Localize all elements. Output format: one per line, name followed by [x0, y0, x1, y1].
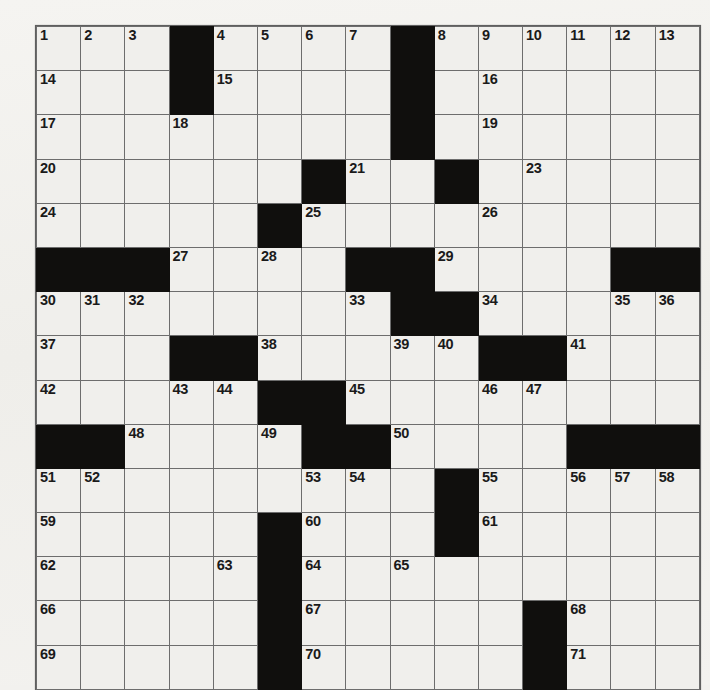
- crossword-cell[interactable]: [81, 601, 125, 645]
- crossword-cell[interactable]: [213, 645, 257, 689]
- crossword-cell[interactable]: [213, 159, 257, 203]
- crossword-cell[interactable]: 39: [390, 336, 434, 380]
- crossword-cell[interactable]: [125, 203, 169, 247]
- crossword-cell[interactable]: [125, 336, 169, 380]
- crossword-cell[interactable]: 55: [478, 468, 522, 512]
- crossword-table[interactable]: 1234567891011121314151617181920212324252…: [36, 26, 700, 690]
- crossword-cell[interactable]: [213, 115, 257, 159]
- crossword-cell[interactable]: [655, 71, 699, 115]
- crossword-cell[interactable]: 21: [346, 159, 390, 203]
- crossword-cell[interactable]: [346, 203, 390, 247]
- crossword-cell[interactable]: 63: [213, 557, 257, 601]
- crossword-cell[interactable]: 49: [257, 424, 301, 468]
- crossword-cell[interactable]: [523, 468, 567, 512]
- crossword-cell[interactable]: [567, 557, 611, 601]
- crossword-cell[interactable]: [125, 71, 169, 115]
- crossword-cell[interactable]: [611, 159, 655, 203]
- crossword-cell[interactable]: [302, 292, 346, 336]
- crossword-cell[interactable]: 35: [611, 292, 655, 336]
- crossword-cell[interactable]: [169, 468, 213, 512]
- crossword-cell[interactable]: [567, 380, 611, 424]
- crossword-cell[interactable]: [655, 557, 699, 601]
- crossword-cell[interactable]: 43: [169, 380, 213, 424]
- crossword-cell[interactable]: [611, 71, 655, 115]
- crossword-cell[interactable]: 46: [478, 380, 522, 424]
- crossword-cell[interactable]: [346, 645, 390, 689]
- crossword-cell[interactable]: [523, 513, 567, 557]
- crossword-cell[interactable]: [523, 203, 567, 247]
- crossword-cell[interactable]: [611, 601, 655, 645]
- crossword-cell[interactable]: [81, 336, 125, 380]
- crossword-cell[interactable]: [434, 71, 478, 115]
- crossword-cell[interactable]: [213, 601, 257, 645]
- crossword-cell[interactable]: 52: [81, 468, 125, 512]
- crossword-cell[interactable]: [81, 645, 125, 689]
- crossword-cell[interactable]: 61: [478, 513, 522, 557]
- crossword-cell[interactable]: 70: [302, 645, 346, 689]
- crossword-cell[interactable]: [611, 203, 655, 247]
- crossword-cell[interactable]: 31: [81, 292, 125, 336]
- crossword-cell[interactable]: 2: [81, 27, 125, 71]
- crossword-cell[interactable]: [125, 557, 169, 601]
- crossword-cell[interactable]: 20: [37, 159, 81, 203]
- crossword-cell[interactable]: 44: [213, 380, 257, 424]
- crossword-cell[interactable]: 59: [37, 513, 81, 557]
- crossword-cell[interactable]: [611, 336, 655, 380]
- crossword-cell[interactable]: 11: [567, 27, 611, 71]
- crossword-cell[interactable]: [567, 159, 611, 203]
- crossword-cell[interactable]: 29: [434, 247, 478, 291]
- crossword-cell[interactable]: [390, 203, 434, 247]
- crossword-cell[interactable]: [81, 115, 125, 159]
- crossword-cell[interactable]: 62: [37, 557, 81, 601]
- crossword-cell[interactable]: 42: [37, 380, 81, 424]
- crossword-cell[interactable]: [390, 513, 434, 557]
- crossword-cell[interactable]: [169, 557, 213, 601]
- crossword-cell[interactable]: 8: [434, 27, 478, 71]
- crossword-cell[interactable]: 71: [567, 645, 611, 689]
- crossword-cell[interactable]: [478, 557, 522, 601]
- crossword-cell[interactable]: [434, 115, 478, 159]
- crossword-cell[interactable]: [257, 71, 301, 115]
- crossword-cell[interactable]: [390, 468, 434, 512]
- crossword-cell[interactable]: 34: [478, 292, 522, 336]
- crossword-cell[interactable]: 30: [37, 292, 81, 336]
- crossword-cell[interactable]: 5: [257, 27, 301, 71]
- crossword-cell[interactable]: [346, 115, 390, 159]
- crossword-cell[interactable]: 9: [478, 27, 522, 71]
- crossword-cell[interactable]: [302, 71, 346, 115]
- crossword-cell[interactable]: [81, 159, 125, 203]
- crossword-cell[interactable]: [81, 513, 125, 557]
- crossword-cell[interactable]: 12: [611, 27, 655, 71]
- crossword-cell[interactable]: [567, 71, 611, 115]
- crossword-cell[interactable]: [125, 513, 169, 557]
- crossword-cell[interactable]: 16: [478, 71, 522, 115]
- crossword-cell[interactable]: [346, 336, 390, 380]
- crossword-cell[interactable]: 58: [655, 468, 699, 512]
- crossword-cell[interactable]: 41: [567, 336, 611, 380]
- crossword-cell[interactable]: [567, 292, 611, 336]
- crossword-cell[interactable]: [125, 468, 169, 512]
- crossword-cell[interactable]: 53: [302, 468, 346, 512]
- crossword-cell[interactable]: 14: [37, 71, 81, 115]
- crossword-cell[interactable]: [478, 247, 522, 291]
- crossword-cell[interactable]: [434, 424, 478, 468]
- crossword-cell[interactable]: [567, 115, 611, 159]
- crossword-cell[interactable]: [434, 380, 478, 424]
- crossword-cell[interactable]: 54: [346, 468, 390, 512]
- crossword-cell[interactable]: 7: [346, 27, 390, 71]
- crossword-cell[interactable]: [257, 292, 301, 336]
- crossword-cell[interactable]: [81, 71, 125, 115]
- crossword-cell[interactable]: [81, 557, 125, 601]
- crossword-cell[interactable]: [346, 557, 390, 601]
- crossword-cell[interactable]: [125, 380, 169, 424]
- crossword-cell[interactable]: 28: [257, 247, 301, 291]
- crossword-cell[interactable]: [257, 468, 301, 512]
- crossword-cell[interactable]: [655, 601, 699, 645]
- crossword-cell[interactable]: [169, 513, 213, 557]
- crossword-cell[interactable]: [655, 513, 699, 557]
- crossword-cell[interactable]: 24: [37, 203, 81, 247]
- crossword-cell[interactable]: [611, 115, 655, 159]
- crossword-cell[interactable]: 38: [257, 336, 301, 380]
- crossword-cell[interactable]: [302, 336, 346, 380]
- crossword-cell[interactable]: [125, 159, 169, 203]
